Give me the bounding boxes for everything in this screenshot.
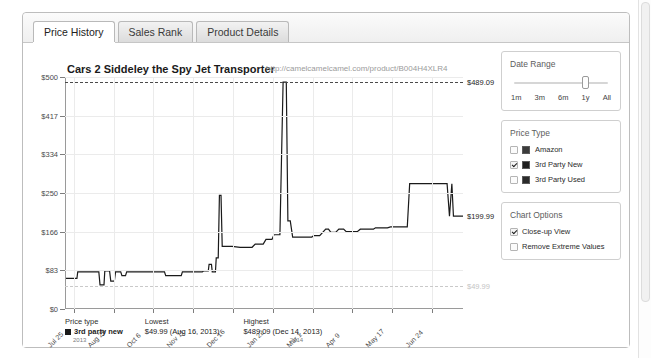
tab-sales-rank[interactable]: Sales Rank — [118, 21, 194, 42]
gridline-horizontal — [65, 116, 463, 117]
date-range-title: Date Range — [510, 59, 612, 69]
scrollbar-thumb[interactable] — [641, 2, 650, 302]
chart-option-close-up-view[interactable]: Close-up View — [510, 227, 612, 236]
summary-table: Price type Lowest Highest 3rd party new … — [65, 317, 322, 336]
gridline-horizontal — [65, 193, 463, 194]
slider-knob[interactable] — [582, 76, 589, 89]
table-row: 3rd party new $49.99 (Aug 16, 2013) $489… — [65, 327, 322, 336]
x-axis-tick — [74, 309, 75, 313]
x-axis-tick — [193, 309, 194, 313]
x-axis-tick — [114, 309, 115, 313]
y-axis-label: $334 — [41, 150, 58, 159]
gridline-horizontal — [65, 77, 463, 78]
year-marker: 2014 — [290, 337, 303, 343]
date-range-option-1y[interactable]: 1y — [582, 93, 590, 102]
page-scrollbar[interactable] — [638, 0, 651, 358]
gridline-vertical — [114, 77, 115, 309]
gridline-vertical — [233, 77, 234, 309]
gridline-horizontal — [65, 154, 463, 155]
price-type-3rd-party-used[interactable]: 3rd Party Used — [510, 175, 612, 184]
price-type-title: Price Type — [510, 128, 612, 138]
gridline-vertical — [74, 77, 75, 309]
y-axis-label: $500 — [41, 73, 58, 82]
x-axis — [65, 308, 463, 309]
annotation-current-price: $199.99 — [467, 212, 494, 221]
cell-lowest: $49.99 (Aug 16, 2013) — [123, 327, 220, 336]
price-type-3rd-party-used-label: 3rd Party Used — [535, 175, 585, 184]
series-path — [65, 82, 463, 285]
product-url: http://camelcamelcamel.com/product/B004H… — [266, 64, 447, 73]
y-axis-label: $83 — [45, 266, 58, 275]
cell-highest: $489.09 (Dec 14, 2013) — [219, 327, 322, 336]
chart-title: Cars 2 Siddeley the Spy Jet Transporter — [67, 63, 275, 75]
controls-sidebar: Date Range 1m 3m 6m 1y All Price Type — [501, 51, 621, 269]
tab-product-details[interactable]: Product Details — [196, 21, 289, 42]
price-type-3rd-party-new[interactable]: 3rd Party New — [510, 160, 612, 169]
x-axis-tick — [273, 309, 274, 313]
date-range-options: 1m 3m 6m 1y All — [510, 93, 612, 102]
y-axis-label: $250 — [41, 189, 58, 198]
x-axis-tick — [153, 309, 154, 313]
y-axis-tick — [60, 232, 65, 233]
checkbox-amazon-icon[interactable] — [510, 146, 518, 154]
y-axis-tick — [60, 309, 65, 310]
legend-swatch-icon — [65, 329, 71, 335]
max-dashed-line — [65, 82, 463, 83]
gridline-vertical — [193, 77, 194, 309]
chart-options-box: Chart Options Close-up View Remove Extre… — [501, 202, 621, 260]
date-range-option-6m[interactable]: 6m — [558, 93, 568, 102]
table-header-row: Price type Lowest Highest — [65, 317, 322, 327]
price-type-amazon[interactable]: Amazon — [510, 145, 612, 154]
header-lowest: Lowest — [123, 317, 220, 327]
price-chart: Cars 2 Siddeley the Spy Jet Transporter … — [23, 43, 493, 349]
price-type-box: Price Type Amazon 3rd Party New — [501, 120, 621, 193]
y-axis-tick — [60, 77, 65, 78]
gridline-horizontal — [65, 270, 463, 271]
legend-3rd-party-new-icon — [522, 161, 530, 169]
gridline-vertical — [153, 77, 154, 309]
chart-option-remove-extreme-values-label: Remove Extreme Values — [522, 242, 604, 251]
annotation-min-dashed-line: $49.99 — [467, 281, 490, 290]
app-root: Price History Sales Rank Product Details… — [0, 0, 651, 358]
legend-amazon-icon — [522, 146, 530, 154]
tab-bar: Price History Sales Rank Product Details — [23, 13, 629, 43]
price-type-3rd-party-new-label: 3rd Party New — [535, 160, 583, 169]
date-range-slider[interactable] — [514, 76, 608, 90]
plot-area[interactable]: $500$417$334$250$166$83$0Jul 25Aug 29Oct… — [65, 77, 463, 309]
tab-price-history[interactable]: Price History — [33, 21, 115, 42]
checkbox-remove-extreme-values-icon[interactable] — [510, 243, 518, 251]
gridline-vertical — [313, 77, 314, 309]
checkbox-3rd-party-used-icon[interactable] — [510, 176, 518, 184]
y-axis-label: $417 — [41, 111, 58, 120]
date-range-option-3m[interactable]: 3m — [535, 93, 545, 102]
chart-option-close-up-view-label: Close-up View — [522, 227, 570, 236]
checkbox-close-up-view-icon[interactable] — [510, 228, 518, 236]
y-axis-tick — [60, 154, 65, 155]
checkbox-3rd-party-new-icon[interactable] — [510, 161, 518, 169]
x-axis-tick — [352, 309, 353, 313]
header-highest: Highest — [219, 317, 322, 327]
chart-option-remove-extreme-values[interactable]: Remove Extreme Values — [510, 242, 612, 251]
y-axis-tick — [60, 270, 65, 271]
x-axis-tick — [313, 309, 314, 313]
slider-track[interactable] — [514, 82, 608, 84]
price-type-amazon-label: Amazon — [535, 145, 563, 154]
header-price-type: Price type — [65, 317, 123, 327]
gridline-vertical — [432, 77, 433, 309]
x-axis-tick — [233, 309, 234, 313]
chart-options-title: Chart Options — [510, 210, 612, 220]
cell-price-type: 3rd party new — [65, 327, 123, 336]
date-range-option-1m[interactable]: 1m — [511, 93, 521, 102]
y-axis-label: $166 — [41, 227, 58, 236]
price-history-panel: Price History Sales Rank Product Details… — [22, 12, 630, 348]
gridline-vertical — [392, 77, 393, 309]
x-axis-label: Jul 25 — [46, 330, 64, 348]
x-axis-tick — [432, 309, 433, 313]
y-axis-tick — [60, 116, 65, 117]
date-range-box: Date Range 1m 3m 6m 1y All — [501, 51, 621, 111]
date-range-option-all[interactable]: All — [603, 93, 611, 102]
min-dashed-line — [65, 286, 463, 287]
panel-body: Cars 2 Siddeley the Spy Jet Transporter … — [23, 43, 629, 347]
cell-price-type-label: 3rd party new — [74, 327, 123, 336]
y-axis-label: $0 — [50, 305, 58, 314]
